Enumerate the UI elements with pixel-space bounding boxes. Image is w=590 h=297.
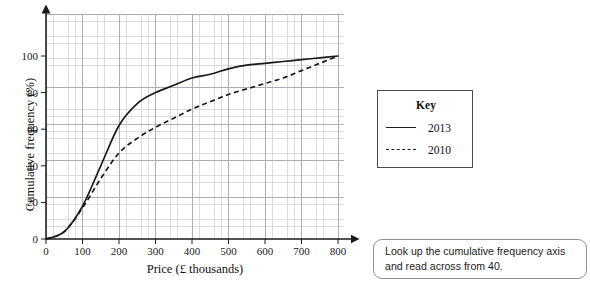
x-tick-label: 400 bbox=[184, 246, 201, 257]
hint-callout-box: Look up the cumulative frequency axis an… bbox=[373, 239, 587, 279]
x-tick-label: 700 bbox=[293, 246, 310, 257]
y-axis-title: Cumulative frequency (%) bbox=[23, 40, 38, 250]
series-line-2010 bbox=[46, 56, 338, 239]
x-tick-label: 200 bbox=[111, 246, 128, 257]
series-line-2013 bbox=[46, 56, 338, 239]
key-entry-label: 2010 bbox=[428, 144, 451, 156]
x-tick-label: 300 bbox=[147, 246, 164, 257]
x-tick-label: 800 bbox=[330, 246, 347, 257]
chart-key-box: Key 2013 2010 bbox=[377, 90, 473, 168]
hint-text: Look up the cumulative frequency axis an… bbox=[385, 244, 575, 274]
page-root: 0100200300400500600700800 020406080100 P… bbox=[0, 0, 590, 297]
x-tick-label: 600 bbox=[257, 246, 274, 257]
key-title: Key bbox=[378, 99, 474, 111]
key-entry-2013: 2013 bbox=[386, 121, 470, 135]
key-entry-2010: 2010 bbox=[386, 143, 470, 157]
x-tick-label: 100 bbox=[74, 246, 91, 257]
solid-line-swatch-icon bbox=[386, 123, 416, 133]
key-entry-label: 2013 bbox=[428, 122, 451, 134]
x-tick-label: 0 bbox=[43, 246, 49, 257]
dashed-line-swatch-icon bbox=[386, 145, 416, 155]
x-axis-title: Price (£ thousands) bbox=[46, 262, 344, 277]
cumulative-frequency-chart: 0100200300400500600700800 020406080100 P… bbox=[0, 0, 370, 297]
x-tick-label: 500 bbox=[220, 246, 237, 257]
